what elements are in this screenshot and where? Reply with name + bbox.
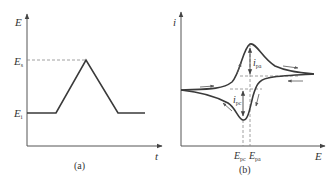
sweep-arrow-rising	[237, 63, 241, 74]
es-label: Es	[13, 55, 24, 68]
panel-a: E t Es Ei (a)	[13, 14, 162, 172]
sweep-arrow-right-forward	[283, 66, 298, 68]
y-axis-label: E	[14, 16, 22, 28]
y-axis-label: i	[173, 16, 176, 28]
sweep-arrow-left-forward	[200, 86, 214, 87]
epa-label: Epa	[248, 150, 261, 162]
ipc-label: ipc	[233, 94, 242, 106]
sweep-arrow-falling	[256, 94, 259, 106]
caption-a: (a)	[74, 160, 85, 172]
ipa-label: ipa	[253, 57, 262, 69]
epc-label: Epc	[233, 150, 246, 162]
x-axis-label: E	[314, 150, 322, 162]
panel-b: i E ipa ipc Epc Epa (b)	[173, 12, 325, 176]
figure: E t Es Ei (a) i E ipa ipc Epc E	[0, 0, 335, 185]
cv-forward-branch	[181, 44, 314, 90]
x-axis-label: t	[155, 150, 159, 162]
triangular-waveform	[27, 60, 145, 113]
caption-b: (b)	[239, 164, 251, 176]
ei-label: Ei	[13, 107, 23, 120]
